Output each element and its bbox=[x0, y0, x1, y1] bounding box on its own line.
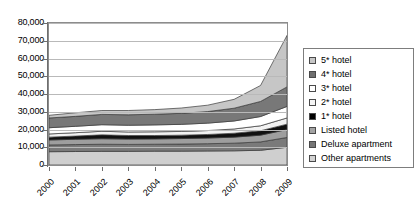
chart-figure: 010,00020,00030,00040,00050,00060,00070,… bbox=[0, 0, 416, 209]
gridline bbox=[49, 147, 287, 148]
x-axis-tick bbox=[208, 167, 209, 171]
legend-item-label: 3* hotel bbox=[321, 84, 352, 93]
y-axis-tick-label: 20,000 bbox=[0, 125, 44, 134]
legend-item[interactable]: 2* hotel bbox=[309, 95, 413, 109]
legend-item[interactable]: 3* hotel bbox=[309, 81, 413, 95]
gridline bbox=[49, 76, 287, 77]
x-axis-tick-label: 2004 bbox=[132, 177, 162, 207]
y-axis-tick-label: 30,000 bbox=[0, 107, 44, 116]
legend-item-label: 1* hotel bbox=[321, 112, 352, 121]
y-axis-tick bbox=[42, 41, 48, 42]
legend-swatch-icon bbox=[309, 99, 316, 106]
legend-swatch-icon bbox=[309, 71, 316, 78]
x-axis-tick bbox=[181, 167, 182, 171]
y-axis-tick bbox=[42, 94, 48, 95]
y-axis-tick-label: 50,000 bbox=[0, 71, 44, 80]
legend-item[interactable]: 1* hotel bbox=[309, 109, 413, 123]
legend-swatch-icon bbox=[309, 85, 316, 92]
gridline bbox=[49, 23, 287, 24]
y-axis-tick-label: 40,000 bbox=[0, 89, 44, 98]
y-axis-tick bbox=[42, 147, 48, 148]
legend-item[interactable]: Other apartments bbox=[309, 151, 413, 165]
y-axis-tick-label: 0 bbox=[0, 160, 44, 169]
legend-swatch-icon bbox=[309, 113, 316, 120]
x-axis-tick bbox=[128, 167, 129, 171]
gridline bbox=[49, 94, 287, 95]
y-axis-tick bbox=[42, 165, 48, 166]
y-axis-tick-label: 60,000 bbox=[0, 54, 44, 63]
y-axis-tick bbox=[42, 130, 48, 131]
legend-swatch-icon bbox=[309, 127, 316, 134]
y-axis-tick-label: 70,000 bbox=[0, 36, 44, 45]
x-axis-tick bbox=[261, 167, 262, 171]
x-axis-tick-label: 2003 bbox=[105, 177, 135, 207]
legend-item-label: 5* hotel bbox=[321, 56, 352, 65]
x-axis-tick-label: 2008 bbox=[237, 177, 267, 207]
y-axis-tick-label: 80,000 bbox=[0, 18, 44, 27]
gridline bbox=[49, 59, 287, 60]
y-axis-tick-label: 10,000 bbox=[0, 142, 44, 151]
legend-item[interactable]: Listed hotel bbox=[309, 123, 413, 137]
x-axis-tick bbox=[287, 167, 288, 171]
chart-legend: 5* hotel4* hotel3* hotel2* hotel1* hotel… bbox=[303, 48, 414, 168]
legend-item-label: 2* hotel bbox=[321, 98, 352, 107]
x-axis-tick bbox=[102, 167, 103, 171]
y-axis-tick bbox=[42, 23, 48, 24]
legend-item-label: Other apartments bbox=[321, 154, 391, 163]
gridline bbox=[49, 130, 287, 131]
legend-item[interactable]: 5* hotel bbox=[309, 53, 413, 67]
y-axis-tick bbox=[42, 112, 48, 113]
x-axis-tick bbox=[75, 167, 76, 171]
legend-item[interactable]: Deluxe apartment bbox=[309, 137, 413, 151]
legend-swatch-icon bbox=[309, 57, 316, 64]
x-axis-tick-label: 2002 bbox=[79, 177, 109, 207]
x-axis-tick-label: 2009 bbox=[264, 177, 294, 207]
y-axis-tick bbox=[42, 59, 48, 60]
y-axis-labels: 010,00020,00030,00040,00050,00060,00070,… bbox=[0, 0, 44, 209]
x-axis-tick-label: 2006 bbox=[184, 177, 214, 207]
x-axis-tick bbox=[49, 167, 50, 171]
x-axis-tick-label: 2001 bbox=[52, 177, 82, 207]
legend-item-label: Listed hotel bbox=[321, 126, 367, 135]
y-axis-tick bbox=[42, 76, 48, 77]
legend-swatch-icon bbox=[309, 141, 316, 148]
legend-swatch-icon bbox=[309, 155, 316, 162]
legend-item-label: Deluxe apartment bbox=[321, 140, 392, 149]
x-axis-tick-label: 2007 bbox=[211, 177, 241, 207]
gridline bbox=[49, 41, 287, 42]
legend-item[interactable]: 4* hotel bbox=[309, 67, 413, 81]
x-axis-tick-label: 2005 bbox=[158, 177, 188, 207]
legend-item-label: 4* hotel bbox=[321, 70, 352, 79]
x-axis-tick bbox=[155, 167, 156, 171]
plot-area bbox=[48, 22, 288, 166]
x-axis-tick bbox=[234, 167, 235, 171]
gridline bbox=[49, 112, 287, 113]
